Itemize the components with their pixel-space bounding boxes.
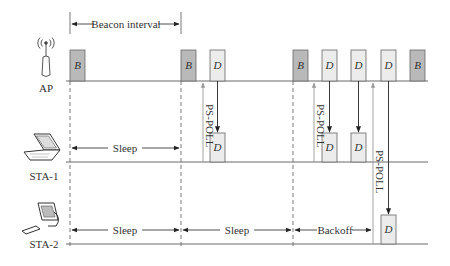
node-label-sta2: STA-2 xyxy=(29,238,58,250)
sleep-label: Sleep xyxy=(113,142,138,154)
power-save-diagram: Beacon interval B B D B D xyxy=(0,0,450,266)
svg-text:D: D xyxy=(384,223,393,235)
ps-poll-label: PS-POLL xyxy=(315,104,327,148)
ap-beacon-frame: B xyxy=(293,50,308,81)
ps-poll-label: PS-POLL xyxy=(204,104,216,148)
svg-text:B: B xyxy=(414,59,421,71)
svg-text:B: B xyxy=(74,59,81,71)
ap-data-frame: D xyxy=(322,50,337,81)
ap-beacon-frame: B xyxy=(70,50,85,81)
sta1-data-frame: D xyxy=(351,133,366,162)
sta2-backoff-interval: Backoff xyxy=(295,224,371,236)
ap-data-frame: D xyxy=(381,50,396,81)
beacon-interval-marker: Beacon interval xyxy=(70,12,181,34)
svg-text:D: D xyxy=(213,59,222,71)
timelines xyxy=(66,81,428,244)
node-label-sta1: STA-1 xyxy=(29,170,58,182)
sleep-label: Sleep xyxy=(225,224,250,236)
sta2-data-frame: D xyxy=(381,215,396,244)
backoff-label: Backoff xyxy=(317,224,353,236)
beacon-dashed-lines xyxy=(70,81,293,248)
ap-data-frame: D xyxy=(210,50,225,81)
sta1-frames: D D D xyxy=(210,133,366,162)
ps-poll-label: PS-POLL xyxy=(374,150,386,194)
sta2-sleep-interval-2: Sleep xyxy=(183,224,291,236)
sta2-frames: D xyxy=(381,215,396,244)
svg-text:B: B xyxy=(297,59,304,71)
ap-beacon-frame: B xyxy=(410,50,425,81)
sta2-sleep-interval-1: Sleep xyxy=(72,224,179,236)
svg-text:D: D xyxy=(354,59,363,71)
ap-data-frame: D xyxy=(351,50,366,81)
svg-text:D: D xyxy=(354,141,363,153)
sta1-sleep-interval: Sleep xyxy=(72,142,179,154)
beacon-interval-label: Beacon interval xyxy=(91,18,160,30)
ap-frames: B B D B D D D B xyxy=(70,50,425,81)
svg-text:D: D xyxy=(325,59,334,71)
svg-text:D: D xyxy=(384,59,393,71)
laptop-icon xyxy=(24,134,60,160)
sleep-label: Sleep xyxy=(113,224,138,236)
svg-text:B: B xyxy=(185,59,192,71)
ps-poll-arrows xyxy=(203,83,373,244)
node-label-ap: AP xyxy=(39,82,53,94)
antenna-icon xyxy=(38,38,54,77)
ap-beacon-frame: B xyxy=(181,50,196,81)
desktop-computer-icon xyxy=(22,203,59,234)
